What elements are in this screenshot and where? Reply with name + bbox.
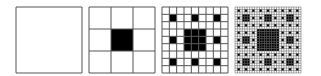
carpet-grid bbox=[88, 6, 156, 74]
carpet-level-2 bbox=[161, 6, 229, 74]
carpet-level-1 bbox=[88, 6, 156, 74]
carpet-level-0 bbox=[15, 6, 83, 74]
sierpinski-carpet-figure bbox=[0, 0, 321, 76]
carpet-grid bbox=[234, 6, 302, 74]
carpet-level-3 bbox=[234, 6, 302, 74]
carpet-grid bbox=[161, 6, 229, 74]
carpet-grid bbox=[15, 6, 83, 74]
